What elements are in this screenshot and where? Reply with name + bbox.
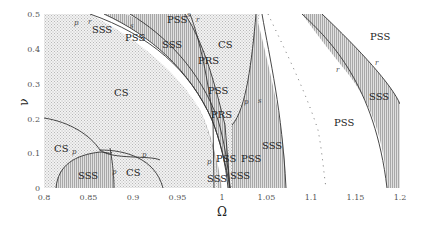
label-p-1: p [74, 19, 79, 27]
label-pss-bottom1: PSS [216, 153, 236, 164]
label-p-2: p [72, 148, 77, 156]
y-tick: 0.2 [27, 115, 40, 124]
label-p-4: p [142, 151, 147, 159]
y-tick: 0.4 [27, 45, 40, 54]
y-tick: 0 [35, 184, 40, 193]
label-p-5: p [244, 98, 249, 106]
label-pss-far-right-top: PSS [370, 31, 390, 42]
x-axis-label: Ω [217, 205, 227, 219]
x-tick: 1 [219, 193, 224, 202]
label-s-3: s [258, 97, 262, 105]
y-tick: 0.5 [27, 10, 40, 19]
y-tick: 0.3 [27, 80, 40, 89]
label-pss-right: PSS [334, 117, 354, 128]
x-tick: 0.8 [38, 193, 51, 202]
x-tick: 1.05 [258, 193, 276, 202]
label-cs-left: CS [54, 143, 69, 154]
label-s-1: s [130, 22, 134, 30]
label-s-2: s [187, 11, 191, 19]
bifurcation-diagram: CS CS CS CS SSS SSS SSS SSS SSS SSS SSS … [0, 0, 427, 227]
label-prs-lower: PRS [211, 109, 232, 120]
y-axis: 0.5 0.4 0.3 0.2 0.1 0 ν [17, 10, 40, 193]
label-sss-upper-mid: SSS [162, 39, 182, 50]
x-axis: 0.8 0.85 0.9 0.95 1 1.05 1.1 1.15 1.2 Ω [38, 193, 407, 219]
x-tick: 0.85 [80, 193, 98, 202]
label-p-6: p [207, 158, 212, 166]
label-pss-center: PSS [208, 85, 228, 96]
x-tick: 0.95 [169, 193, 187, 202]
x-tick: 1.15 [347, 193, 365, 202]
label-prs-upper: PRS [198, 55, 219, 66]
label-cs-top-right: CS [218, 39, 233, 50]
label-cs-bottom: CS [126, 167, 141, 178]
x-tick: 1.1 [305, 193, 318, 202]
label-pss-bottom2: PSS [241, 153, 261, 164]
label-p-3: p [112, 168, 117, 176]
label-sss-right-mid: SSS [262, 140, 282, 151]
label-pss-top-band: PSS [167, 14, 187, 25]
x-tick: 1.2 [394, 193, 407, 202]
label-pss-top-mid: PSS [125, 32, 145, 43]
x-tick: 0.9 [127, 193, 140, 202]
label-sss-bottom-left: SSS [78, 170, 98, 181]
label-sss-top-band: SSS [92, 24, 112, 35]
label-sss-bottom-center2: SSS [230, 170, 250, 181]
label-cs-main: CS [114, 87, 129, 98]
label-sss-far-right: SSS [369, 91, 389, 102]
y-tick: 0.1 [27, 149, 40, 158]
label-sss-bottom-center1: SSS [207, 173, 227, 184]
y-axis-label: ν [17, 98, 31, 105]
